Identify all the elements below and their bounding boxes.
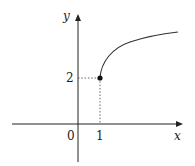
- chart-canvas: y x 0 1 2: [0, 0, 195, 166]
- function-curve: [100, 32, 178, 78]
- x-tick-label-1: 1: [96, 129, 104, 143]
- y-axis-label: y: [62, 9, 70, 23]
- y-axis-arrow-icon: [75, 14, 81, 21]
- start-point-dot: [97, 75, 102, 80]
- x-axis-label: x: [174, 129, 181, 143]
- y-tick-label-2: 2: [66, 71, 74, 85]
- origin-label: 0: [67, 129, 75, 143]
- x-axis-arrow-icon: [176, 121, 183, 127]
